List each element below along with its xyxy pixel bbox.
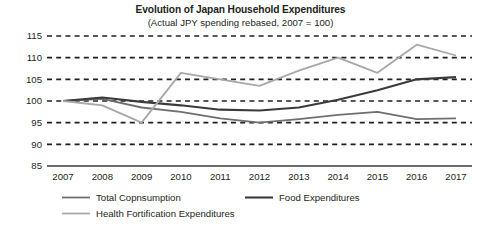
x-axis-tick-labels: 2007200820092010201120122013201420152016… bbox=[52, 171, 466, 182]
x-axis-tick-label: 2016 bbox=[406, 171, 427, 182]
chart-container: Evolution of Japan Household Expenditure… bbox=[0, 0, 481, 228]
y-axis-tick-labels: 859095100105110115 bbox=[26, 30, 42, 171]
x-axis-tick-label: 2007 bbox=[52, 171, 73, 182]
gridlines bbox=[47, 36, 472, 144]
y-axis-tick-label: 95 bbox=[31, 117, 42, 128]
x-axis-tick-label: 2010 bbox=[170, 171, 191, 182]
series-line-1 bbox=[63, 77, 456, 110]
x-axis-tick-label: 2009 bbox=[131, 171, 152, 182]
legend-label-2: Health Fortification Expenditures bbox=[96, 208, 235, 219]
y-axis-tick-label: 90 bbox=[31, 139, 42, 150]
y-axis-tick-label: 115 bbox=[27, 30, 42, 41]
x-axis-tick-label: 2014 bbox=[327, 171, 349, 182]
chart-legend: Total CopnsumptionFood ExpendituresHealt… bbox=[62, 192, 360, 219]
line-chart-plot: 859095100105110115 200720082009201020112… bbox=[0, 0, 481, 228]
data-series-lines bbox=[63, 45, 456, 123]
x-axis-tick-label: 2012 bbox=[249, 171, 270, 182]
legend-label-0: Total Copnsumption bbox=[96, 192, 181, 203]
legend-label-1: Food Expenditures bbox=[279, 192, 360, 203]
y-axis-tick-label: 110 bbox=[27, 52, 42, 63]
x-axis-tick-label: 2011 bbox=[210, 171, 231, 182]
x-axis-tick-label: 2008 bbox=[92, 171, 113, 182]
y-axis-tick-label: 100 bbox=[26, 95, 42, 106]
y-axis-tick-label: 85 bbox=[31, 160, 42, 171]
x-axis-tick-label: 2015 bbox=[367, 171, 388, 182]
x-axis-tick-label: 2017 bbox=[445, 171, 466, 182]
y-axis-tick-label: 105 bbox=[26, 74, 42, 85]
x-axis-tick-label: 2013 bbox=[288, 171, 309, 182]
